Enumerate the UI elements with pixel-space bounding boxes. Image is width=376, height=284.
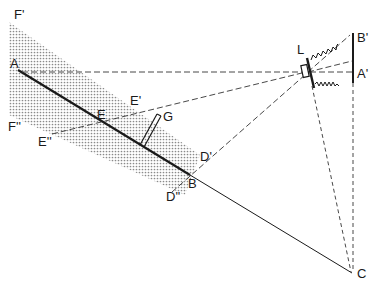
line-BC <box>190 175 352 273</box>
label-B: B <box>188 176 197 191</box>
pointer-G-cap <box>157 114 161 116</box>
ray-mirror-C <box>312 86 351 272</box>
label-F-double-prime: F'' <box>8 119 21 134</box>
label-E-prime: E' <box>130 93 141 108</box>
label-C: C <box>357 266 366 281</box>
label-A-prime: A' <box>357 66 368 81</box>
label-G: G <box>163 109 173 124</box>
label-B-prime: B' <box>357 30 368 45</box>
label-L: L <box>297 42 304 57</box>
label-E-double-prime: E'' <box>38 134 52 149</box>
ray-mid <box>308 61 352 72</box>
label-D-double-prime: D'' <box>166 189 180 204</box>
spring-lower-icon <box>315 82 339 86</box>
label-E: E <box>97 107 106 122</box>
optics-diagram: F' A F'' E'' E E' G D' B D'' L B' A' C <box>0 0 376 284</box>
label-A: A <box>10 56 19 71</box>
label-D-prime: D' <box>200 149 212 164</box>
label-F-prime: F' <box>14 7 24 22</box>
